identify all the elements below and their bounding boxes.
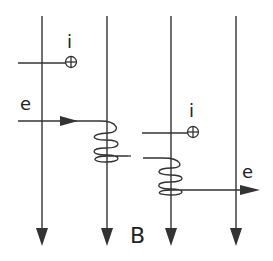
electron-spiral-1	[94, 121, 128, 162]
ion-1-label: i	[67, 31, 72, 52]
electron-label-in: e	[20, 93, 31, 114]
field-arrow-icon	[101, 228, 113, 246]
electron-spiral-2	[143, 158, 240, 195]
electron-label-out: e	[242, 161, 253, 182]
field-arrow-icon	[165, 228, 177, 246]
ion-1	[18, 57, 77, 68]
magnetic-field-diagram: i e e i B	[0, 0, 273, 261]
electron-path	[18, 116, 260, 195]
field-arrow-icon	[230, 228, 242, 246]
ion-2	[142, 127, 199, 138]
field-arrow-icon	[36, 228, 48, 246]
ion-2-label: i	[189, 100, 194, 121]
electron-exit-arrow-icon	[240, 185, 260, 195]
electron-direction-arrow-icon	[60, 116, 78, 126]
field-label: B	[130, 223, 145, 248]
